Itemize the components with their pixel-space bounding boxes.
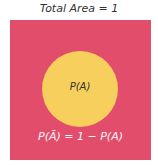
- complement-label: P(Ā) = 1 − P(A): [10, 130, 151, 143]
- sample-space-square: P(A) P(Ā) = 1 − P(A): [10, 20, 151, 160]
- diagram-title: Total Area = 1: [0, 2, 158, 15]
- event-a-label: P(A): [42, 81, 118, 92]
